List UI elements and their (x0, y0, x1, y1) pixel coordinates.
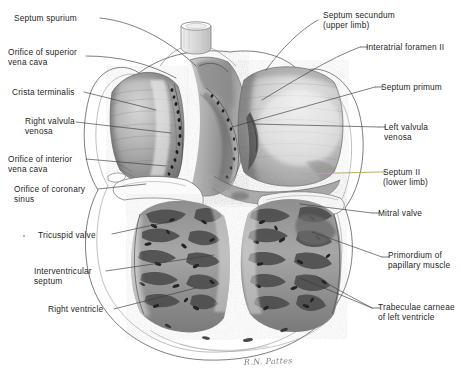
label-orifice-coronary-sinus: Orifice of coronary sinus (14, 185, 85, 204)
label-orifice-superior-vena-cava: Orifice of superior vena cava (8, 48, 77, 67)
label-interventricular-septum: Interventricular septum (34, 267, 92, 286)
label-primordium-papillary-muscle: Primordium of papillary muscle (388, 251, 450, 270)
label-septum-ii-lower-limb: Septum II (lower limb) (383, 168, 428, 187)
label-trabeculae-carneae: Trabeculae carneae of left ventricle (378, 303, 455, 322)
label-septum-spurium: Septum spurium (14, 14, 77, 24)
label-layer: Septum spurium Orifice of superior vena … (0, 0, 461, 382)
label-orifice-interior-vena-cava: Orifice of interior vena cava (8, 155, 72, 174)
label-mitral-valve: Mitral valve (378, 209, 422, 219)
label-crista-terminalis: Crista terminalis (12, 88, 75, 98)
artist-signature: R.N. Pattes (244, 356, 293, 367)
label-interatrial-foramen-ii: Interatrial foramen II (366, 43, 444, 53)
label-tricuspid-valve: Tricuspid valve (38, 231, 96, 241)
label-right-valvula-venosa: Right valvula venosa (25, 117, 75, 136)
anatomical-figure: Septum spurium Orifice of superior vena … (0, 0, 461, 382)
label-septum-secundum: Septum secundum (upper limb) (323, 11, 395, 30)
label-right-ventricle: Right ventricle (48, 305, 103, 315)
label-left-valvula-venosa: Left valvula venosa (384, 123, 428, 142)
label-septum-primum: Septum primum (381, 83, 442, 93)
